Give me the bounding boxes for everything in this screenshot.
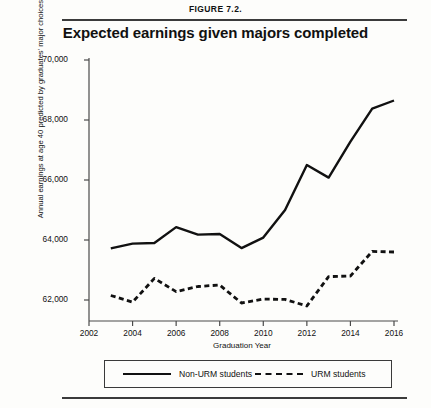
series-line-urm (111, 251, 394, 306)
dashed-line-swatch-icon (255, 373, 303, 375)
plot-area: Annual earnings at age 40 predicted by g… (0, 0, 431, 408)
footer-rule-bottom (62, 397, 407, 399)
chart-legend: Non-URM students URM students (104, 360, 392, 388)
figure-container: FIGURE 7.2. Expected earnings given majo… (0, 0, 431, 408)
legend-label-non-urm: Non-URM students (179, 369, 252, 379)
legend-item-urm: URM students (255, 361, 365, 387)
chart-canvas (0, 0, 431, 408)
legend-label-urm: URM students (311, 369, 365, 379)
series-line-non-urm (111, 101, 394, 249)
legend-item-non-urm: Non-URM students (123, 361, 252, 387)
axes (84, 58, 398, 326)
data-series (111, 101, 394, 307)
solid-line-swatch-icon (123, 373, 171, 376)
